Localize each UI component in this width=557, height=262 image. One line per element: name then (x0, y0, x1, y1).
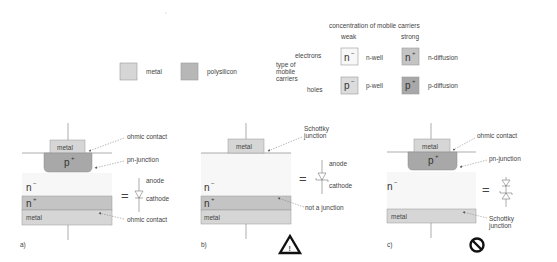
n-minus-symbol: n (204, 182, 210, 193)
arrow-ohmic-top (453, 138, 475, 150)
arrow-ohmic-top (89, 138, 124, 151)
stray-dot (165, 12, 167, 14)
p-well-label: p-well (366, 82, 384, 90)
p-diffusion-symbol: p (405, 80, 411, 91)
metal-swatch (120, 63, 137, 80)
annotation-schottky-line2: junction (488, 222, 512, 230)
svg-text:!: ! (289, 245, 291, 252)
annotation-ohmic-top: ohmic contact (127, 133, 167, 140)
diagram-canvas: metal polysilicon concentration of mobil… (0, 0, 557, 262)
n-minus-region (387, 172, 476, 209)
n-well-symbol: n (344, 52, 350, 63)
equals-sign: = (482, 182, 490, 197)
weak-label: weak (340, 33, 357, 40)
diode-symbol (135, 178, 143, 212)
annotation-ohmic-top: ohmic contact (477, 132, 517, 139)
arrow-pn-junction (95, 161, 124, 168)
carrier-legend: concentration of mobile carriers weak st… (276, 22, 458, 94)
n-plus-symbol: n (26, 198, 32, 209)
panel-a: metal p + n − n + metal ohmic contact pn… (20, 123, 170, 249)
polysilicon-swatch (181, 63, 198, 80)
p-well-symbol: p (344, 80, 350, 91)
n-plus-sup: + (211, 196, 215, 202)
n-diffusion-label: n-diffusion (428, 54, 458, 61)
concentration-title: concentration of mobile carriers (329, 22, 420, 29)
annotation-schottky-line2: junction (303, 132, 327, 140)
strong-label: strong (401, 33, 419, 41)
n-plus-sup: + (33, 196, 37, 202)
n-minus-sup: − (211, 180, 215, 186)
top-metal-label: metal (422, 143, 438, 150)
n-diffusion-sup: + (412, 50, 416, 56)
top-metal-label: metal (57, 144, 73, 151)
annotation-ohmic-bottom: ohmic contact (127, 216, 167, 223)
p-plus-sup: + (435, 153, 439, 159)
annotation-pn-junction: pn-junction (127, 156, 159, 164)
annotation-pn-junction: pn-junction (489, 155, 521, 163)
n-minus-symbol: n (26, 182, 32, 193)
arrow-pn-junction (460, 160, 487, 167)
anode-label: anode (329, 160, 347, 167)
n-minus-region (201, 153, 291, 196)
bottom-metal-label: metal (204, 214, 220, 221)
schottky-diode-symbol (316, 160, 328, 194)
p-plus-symbol: p (428, 155, 434, 166)
top-metal-label: metal (236, 143, 252, 150)
holes-label: holes (307, 86, 323, 93)
cathode-label: cathode (146, 195, 170, 202)
p-diffusion-sup: + (412, 78, 416, 84)
n-well-sup: − (351, 50, 355, 56)
annotation-not-a-junction: not a junction (305, 204, 344, 212)
arrow-schottky (268, 137, 302, 151)
prohibited-icon (471, 239, 484, 252)
anode-label: anode (146, 177, 164, 184)
p-plus-symbol: p (64, 157, 70, 168)
carrier-type-line2: mobile (276, 68, 296, 75)
n-plus-symbol: n (204, 198, 210, 209)
equals-sign: = (299, 171, 307, 186)
p-plus-sup: + (71, 155, 75, 161)
cathode-label: cathode (329, 182, 353, 189)
n-well-label: n-well (366, 54, 384, 61)
caption-a: a) (20, 241, 26, 249)
bottom-metal-label: metal (26, 214, 42, 221)
n-minus-sup: − (33, 180, 37, 186)
bottom-metal-label: metal (391, 213, 407, 220)
p-diffusion-label: p-diffusion (428, 82, 458, 90)
panel-c: metal p + n − metal ohmic contact pn-jun… (387, 123, 521, 252)
polysilicon-legend-label: polysilicon (207, 68, 237, 76)
caption-b: b) (201, 241, 207, 249)
panel-b: metal n − n + metal Schottky junction no… (201, 123, 353, 253)
electrons-label: electrons (295, 52, 322, 59)
metal-legend-label: metal (146, 68, 162, 75)
n-diffusion-symbol: n (405, 52, 411, 63)
caption-c: c) (387, 241, 392, 249)
material-legend: metal polysilicon (120, 63, 237, 80)
p-well-sup: − (351, 78, 355, 84)
warning-icon: ! (280, 236, 300, 253)
series-diode-symbol (500, 177, 512, 207)
carrier-type-line3: carriers (276, 75, 298, 82)
equals-sign: = (121, 188, 129, 203)
n-minus-sup: − (394, 179, 398, 185)
n-minus-symbol: n (387, 181, 393, 192)
